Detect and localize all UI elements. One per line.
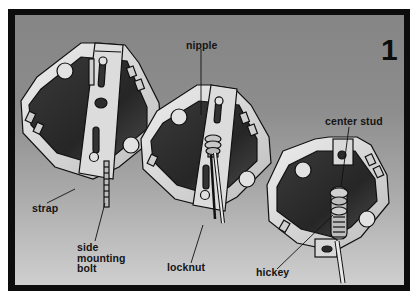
box-with-strap	[21, 43, 161, 207]
label-side: side	[77, 242, 126, 253]
box-with-nipple	[141, 85, 271, 223]
label-locknut: locknut	[167, 262, 205, 273]
label-center-stud: center stud	[325, 116, 383, 127]
illustration-frame: 1 nipple center stud strap side mounting…	[8, 9, 410, 291]
label-side-mounting-bolt: side mounting bolt	[77, 242, 126, 274]
step-number: 1	[381, 35, 398, 65]
label-nipple: nipple	[186, 40, 218, 51]
label-strap: strap	[32, 203, 58, 214]
label-hickey: hickey	[256, 267, 289, 278]
electrical-boxes-illustration	[15, 15, 404, 285]
label-bolt: bolt	[77, 263, 126, 274]
